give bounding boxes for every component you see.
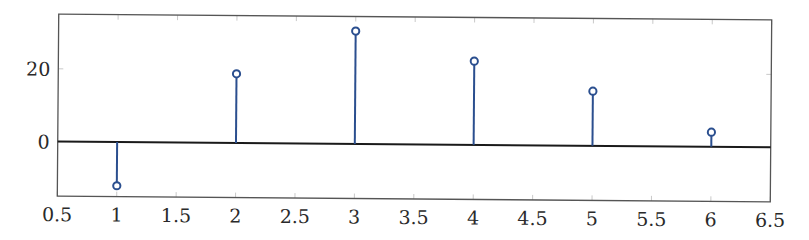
stem-marker [708, 129, 715, 136]
x-tick-label: 5.5 [636, 208, 666, 230]
stem-5 [589, 88, 597, 146]
stems [113, 26, 716, 194]
x-tick-labels: 0.511.522.533.544.555.566.5 [42, 203, 785, 231]
x-tick-label: 3.5 [398, 206, 428, 228]
x-tick-label: 6.5 [755, 209, 785, 231]
stem-4 [470, 58, 478, 145]
stem-1 [113, 142, 121, 189]
zero-baseline [58, 142, 771, 148]
stem-marker [589, 88, 596, 95]
x-ticks [57, 14, 771, 202]
y-tick-labels: 020 [25, 58, 50, 153]
stem-marker [352, 27, 359, 34]
x-tick-label: 2 [229, 205, 241, 227]
x-tick-label: 3 [348, 205, 360, 227]
x-tick-label: 5 [586, 207, 598, 229]
x-tick-label: 1.5 [161, 204, 191, 226]
stem-chart: 0.511.522.533.544.555.566.5 020 [0, 0, 809, 240]
y-tick-label: 20 [26, 58, 50, 80]
y-ticks [58, 69, 772, 147]
stem-marker [233, 70, 240, 77]
plot-frame [57, 14, 771, 202]
y-tick-label: 0 [38, 130, 50, 152]
x-tick-label: 4 [467, 206, 479, 228]
stem-6 [708, 129, 715, 147]
stem-2 [232, 70, 240, 143]
stem-marker [471, 58, 478, 65]
x-tick-label: 0.5 [42, 203, 72, 225]
x-tick-label: 2.5 [280, 205, 310, 227]
stem-3 [351, 27, 359, 143]
x-tick-label: 6 [705, 208, 717, 230]
stem-marker [113, 182, 120, 189]
x-tick-label: 4.5 [517, 207, 547, 229]
x-tick-label: 1 [110, 204, 122, 226]
